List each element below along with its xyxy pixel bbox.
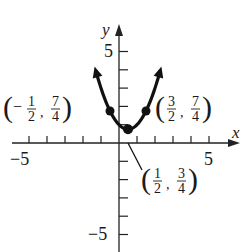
- svg-text:−: −: [13, 98, 22, 115]
- svg-text:(: (: [155, 90, 165, 124]
- point-left: [106, 106, 115, 115]
- svg-text:4: 4: [192, 109, 199, 124]
- svg-text:1: 1: [154, 166, 161, 181]
- svg-text:2: 2: [154, 181, 161, 196]
- axes: [12, 28, 233, 252]
- svg-text:2: 2: [28, 109, 35, 124]
- svg-text:3: 3: [168, 94, 175, 109]
- x-axis-label: x: [231, 123, 240, 142]
- svg-text:): ): [202, 90, 212, 124]
- svg-text:7: 7: [192, 94, 199, 109]
- svg-text:2: 2: [168, 109, 175, 124]
- y-tick-label-max: 5: [104, 41, 113, 61]
- parabola-curve: [97, 73, 160, 129]
- svg-text:7: 7: [52, 94, 59, 109]
- svg-text:(: (: [141, 162, 151, 196]
- label-right-point: ( 3 2 , 7 4 ): [155, 90, 212, 124]
- svg-text:): ): [62, 90, 72, 124]
- svg-text:4: 4: [52, 109, 59, 124]
- svg-text:,: ,: [166, 177, 170, 192]
- svg-text:1: 1: [28, 94, 35, 109]
- curve-right-arrow-icon: [154, 66, 164, 78]
- x-tick-label-min: −5: [10, 149, 29, 169]
- label-left-point: ( − 1 2 , 7 4 ): [3, 90, 72, 124]
- svg-text:,: ,: [180, 105, 184, 120]
- label-vertex-point: ( 1 2 , 3 4 ): [141, 162, 198, 196]
- curve-left-arrow-icon: [93, 66, 103, 78]
- point-right: [142, 106, 151, 115]
- svg-text:4: 4: [178, 181, 185, 196]
- x-tick-label-max: 5: [204, 149, 213, 169]
- y-axis-label: y: [100, 20, 110, 39]
- y-tick-label-min: −5: [88, 224, 107, 244]
- y-axis-arrow-icon: [115, 24, 123, 36]
- svg-text:): ): [188, 162, 198, 196]
- svg-text:(: (: [3, 90, 13, 124]
- svg-text:3: 3: [178, 166, 185, 181]
- point-vertex: [123, 124, 133, 134]
- svg-text:,: ,: [40, 105, 44, 120]
- parabola-graph: x y −5 5 5 −5 ( − 1 2 , 7 4 ) ( 3 2 , 7 …: [0, 0, 243, 252]
- vertex-leader-line: [128, 143, 142, 170]
